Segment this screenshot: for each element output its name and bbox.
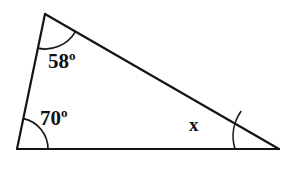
angle-value-bottom-left: 70	[40, 106, 61, 130]
angle-arc-top	[38, 32, 76, 49]
degree-symbol-bottom-left: o	[61, 105, 68, 120]
angle-label-top: 58o	[48, 49, 76, 72]
angle-label-bottom-left: 70o	[40, 106, 68, 129]
degree-symbol-top: o	[69, 48, 76, 63]
triangle-hypotenuse-side	[45, 14, 279, 149]
angle-arc-unknown	[233, 111, 241, 149]
angle-value-top: 58	[48, 49, 69, 73]
angle-label-unknown: x	[189, 115, 199, 134]
triangle-diagram-svg	[0, 0, 287, 169]
triangle-figure: 58o 70o x	[0, 0, 287, 169]
